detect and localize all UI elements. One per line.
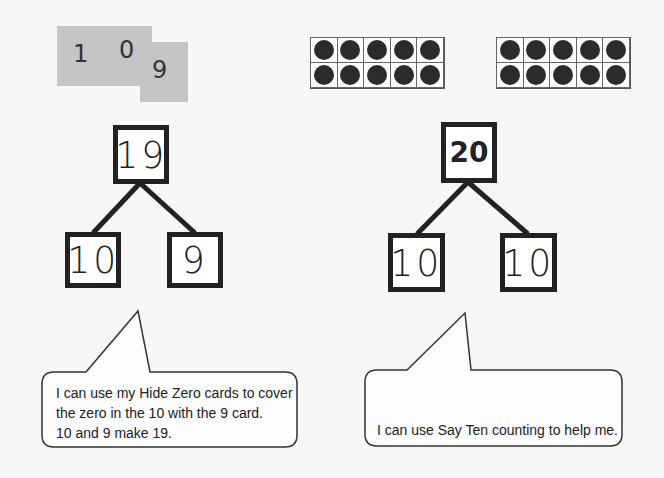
bond-left-part-2-value: 9 xyxy=(182,238,208,282)
bond-line-right-a xyxy=(417,182,468,234)
counter-dot xyxy=(420,65,440,85)
bond-right-part-2-value: 10 xyxy=(503,241,555,285)
bond-right-part-1: 10 xyxy=(388,233,445,292)
counter-dot xyxy=(553,65,573,85)
ten-frame-2 xyxy=(496,37,631,89)
counter-dot xyxy=(314,65,334,85)
bond-left-part-1: 10 xyxy=(65,232,121,288)
card-digit-9: 9 xyxy=(152,56,167,84)
callout-right-line-1: I can use Say Ten counting to help me. xyxy=(377,420,621,440)
counter-dot xyxy=(314,40,334,60)
bond-right-whole: 20 xyxy=(441,122,497,183)
callout-right-text: I can use Say Ten counting to help me. I… xyxy=(377,380,621,478)
counter-dot xyxy=(606,65,626,85)
callout-left-line-1: I can use my Hide Zero cards to cover xyxy=(56,383,296,403)
card-digit-0: 0 xyxy=(119,36,134,64)
counter-dot xyxy=(394,65,414,85)
counter-dot xyxy=(580,40,600,60)
counter-dot xyxy=(394,40,414,60)
counter-dot xyxy=(420,40,440,60)
counter-dot xyxy=(580,65,600,85)
bond-left-part-1-value: 10 xyxy=(67,238,119,282)
card-digit-1: 1 xyxy=(73,40,88,68)
bond-left-whole-value: 19 xyxy=(115,133,167,177)
callout-left-line-2: the zero in the 10 with the 9 card. xyxy=(56,403,296,423)
ten-frame-1 xyxy=(310,37,445,89)
bond-line-left-b xyxy=(140,183,195,233)
callout-left-text: I can use my Hide Zero cards to cover th… xyxy=(56,383,296,443)
counter-dot xyxy=(340,40,360,60)
hide-zero-card-tens: 1 0 xyxy=(57,26,152,86)
bond-right-part-2: 10 xyxy=(500,233,557,292)
bond-right-part-1-value: 10 xyxy=(391,241,443,285)
counter-dot xyxy=(526,40,546,60)
counter-dot xyxy=(367,65,387,85)
counter-dot xyxy=(340,65,360,85)
counter-dot xyxy=(606,40,626,60)
counter-dot xyxy=(526,65,546,85)
bond-line-right-b xyxy=(468,182,528,234)
bond-left-whole: 19 xyxy=(113,125,169,184)
counter-dot xyxy=(367,40,387,60)
bond-left-part-2: 9 xyxy=(167,232,223,288)
counter-dot xyxy=(553,40,573,60)
bond-right-whole-value: 20 xyxy=(450,136,489,169)
hide-zero-card-ones: 9 xyxy=(140,42,188,102)
callout-left-line-3: 10 and 9 make 19. xyxy=(56,423,296,443)
bond-line-left-a xyxy=(93,183,140,233)
counter-dot xyxy=(500,40,520,60)
counter-dot xyxy=(500,65,520,85)
